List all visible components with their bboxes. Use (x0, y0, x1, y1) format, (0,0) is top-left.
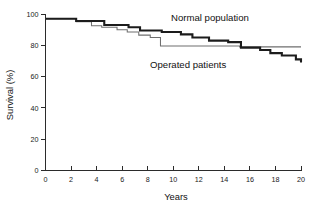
y-axis-ticks: 020406080100 (27, 10, 46, 176)
x-axis-ticks: 02468101214161820 (44, 166, 306, 184)
x-tick-label: 20 (297, 175, 305, 184)
series-label-normal-population: Normal population (171, 12, 249, 23)
series-label-operated-patients: Operated patients (150, 59, 226, 70)
plot-axes (46, 14, 302, 171)
x-tick-label: 0 (44, 175, 48, 184)
y-tick-label: 0 (35, 166, 39, 175)
x-tick-label: 16 (246, 175, 254, 184)
x-tick-label: 14 (220, 175, 228, 184)
x-tick-label: 2 (69, 175, 73, 184)
x-tick-label: 8 (146, 175, 150, 184)
x-tick-label: 4 (95, 175, 99, 184)
series-curve-operated-patients (46, 19, 302, 63)
y-tick-label: 60 (31, 72, 39, 81)
x-tick-label: 12 (195, 175, 203, 184)
series-lines (46, 19, 302, 63)
y-axis-title: Survival (%) (4, 70, 15, 121)
y-tick-label: 80 (31, 41, 39, 50)
x-tick-label: 10 (169, 175, 177, 184)
y-tick-label: 100 (27, 10, 39, 19)
y-tick-label: 20 (31, 135, 39, 144)
x-tick-label: 18 (271, 175, 279, 184)
survival-chart-figure: 020406080100 02468101214161820 Survival … (0, 0, 313, 208)
x-tick-label: 6 (120, 175, 124, 184)
x-axis-title: Years (164, 191, 188, 202)
chart-canvas: 020406080100 02468101214161820 Survival … (0, 0, 313, 208)
y-tick-label: 40 (31, 104, 39, 113)
